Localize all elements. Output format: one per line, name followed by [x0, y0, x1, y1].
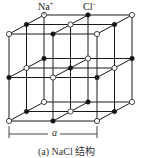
na-ion-atom [6, 31, 11, 36]
cl-ion-atom [24, 109, 29, 114]
cl-ion-atom [51, 119, 56, 124]
na-ion-atom [41, 99, 46, 104]
cl-ion-atom [51, 32, 56, 37]
lattice-constant-label: a [50, 128, 59, 138]
na-ion-atom [129, 12, 134, 17]
na-ion-atom [68, 22, 73, 27]
cl-ion-atom [68, 66, 73, 71]
cl-ion-atom [7, 75, 12, 80]
nacl-crystal-figure: Na+ Cl- a (a) NaCl 结构 [0, 0, 157, 158]
figure-caption: (a) NaCl 结构 [38, 147, 95, 157]
na-ion-atom [68, 109, 73, 114]
na-ion-atom [24, 65, 29, 70]
na-ion-atom [94, 118, 99, 123]
cl-ion-atom [95, 75, 100, 80]
cl-ion-atom [112, 22, 117, 27]
cl-ion-atom [42, 56, 47, 61]
cl-ion-atom [86, 100, 91, 105]
cl-ion-atom [24, 22, 29, 27]
cl-ion-atom [130, 56, 135, 61]
cl-ion-atom [112, 109, 117, 114]
na-ion-label: Na+ [38, 2, 53, 12]
na-ion-atom [50, 75, 55, 80]
cl-ion-atom [86, 13, 91, 18]
nacl-lattice-diagram [0, 0, 157, 158]
na-ion-atom [129, 99, 134, 104]
na-ion-atom [85, 56, 90, 61]
na-ion-atom [6, 118, 11, 123]
na-ion-atom [112, 65, 117, 70]
cl-ion-label: Cl- [83, 2, 94, 12]
na-ion-atom [94, 31, 99, 36]
